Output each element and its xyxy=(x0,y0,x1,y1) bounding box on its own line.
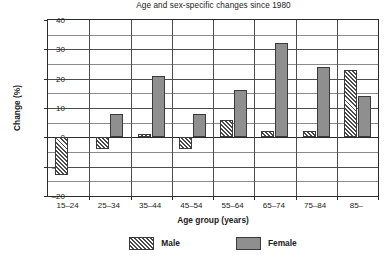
x-tick-label: 35–44 xyxy=(139,201,161,210)
x-tick-label: 55–64 xyxy=(222,201,244,210)
y-tick-label: 30 xyxy=(37,45,65,54)
legend-label-female: Female xyxy=(268,238,297,248)
gridline-vertical xyxy=(337,20,338,196)
chart-legend: Male Female xyxy=(47,234,379,252)
x-tick-mark xyxy=(337,196,338,200)
bar-chart: Age and sex-specific changes since 1980 … xyxy=(0,0,388,262)
legend-label-male: Male xyxy=(161,238,180,248)
bar-female xyxy=(110,114,123,137)
gridline-vertical xyxy=(89,20,90,196)
y-axis-label: Change (%) xyxy=(12,85,22,131)
gridline-vertical xyxy=(254,20,255,196)
bar-female xyxy=(275,43,288,137)
bar-male xyxy=(179,137,192,149)
x-tick-mark xyxy=(296,196,297,200)
x-tick-mark xyxy=(378,196,379,200)
bar-male xyxy=(55,137,68,175)
y-tick-label: –20 xyxy=(37,192,65,201)
bar-male xyxy=(138,134,151,137)
x-axis-label: Age group (years) xyxy=(47,215,379,225)
x-tick-label: 65–74 xyxy=(263,201,285,210)
legend-swatch-female-icon xyxy=(236,237,261,250)
x-tick-label: 85– xyxy=(350,201,363,210)
bar-male xyxy=(220,120,233,138)
bar-female xyxy=(152,76,165,138)
bar-female xyxy=(317,67,330,137)
bar-female xyxy=(234,90,247,137)
x-tick-mark xyxy=(213,196,214,200)
y-tick-label: 10 xyxy=(37,104,65,113)
legend-item-male: Male xyxy=(129,237,180,250)
bar-female xyxy=(358,96,371,137)
legend-swatch-male-icon xyxy=(129,237,154,250)
x-tick-mark xyxy=(89,196,90,200)
chart-title: Age and sex-specific changes since 1980 xyxy=(47,1,380,10)
legend-item-female: Female xyxy=(236,237,297,250)
y-tick-label: 20 xyxy=(37,74,65,83)
x-tick-mark xyxy=(172,196,173,200)
bar-female xyxy=(193,114,206,137)
gridline-vertical xyxy=(172,20,173,196)
x-tick-label: 25–34 xyxy=(98,201,120,210)
x-tick-mark xyxy=(131,196,132,200)
plot-area: Change (%) 403020100–10–20 xyxy=(47,19,379,197)
x-tick-label: 45–54 xyxy=(180,201,202,210)
x-tick-mark xyxy=(254,196,255,200)
bar-male xyxy=(96,137,109,149)
gridline-vertical xyxy=(296,20,297,196)
gridline-vertical xyxy=(131,20,132,196)
x-tick-label: 75–84 xyxy=(304,201,326,210)
bar-male xyxy=(303,131,316,137)
x-tick-label: 15–24 xyxy=(57,201,79,210)
bar-male xyxy=(261,131,274,137)
gridline-vertical xyxy=(213,20,214,196)
bar-male xyxy=(344,70,357,137)
y-tick-label: 40 xyxy=(37,16,65,25)
